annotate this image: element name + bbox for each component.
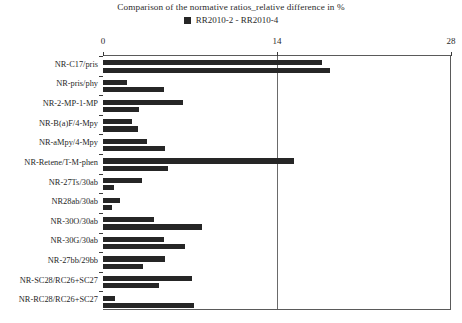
category-tick-mark <box>99 134 103 135</box>
category-label: NR28ab/30ab <box>0 198 98 206</box>
category-label: NR-27Ts/30ab <box>0 178 98 186</box>
bar <box>103 283 159 288</box>
bar <box>103 119 132 124</box>
category-label: NR-pris/phy <box>0 80 98 88</box>
bar <box>103 146 165 151</box>
category-tick-mark <box>99 115 103 116</box>
bar <box>103 185 114 190</box>
bar <box>103 276 192 281</box>
category-label: NR-2-MP-1-MP <box>0 100 98 108</box>
x-tick-mark <box>451 52 452 56</box>
x-tick-mark <box>103 52 104 56</box>
x-tick-label: 14 <box>273 36 282 46</box>
category-tick-mark <box>99 95 103 96</box>
bar <box>103 264 143 269</box>
gridline <box>277 56 278 309</box>
category-tick-mark <box>99 213 103 214</box>
bar <box>103 139 147 144</box>
bar <box>103 60 322 65</box>
chart-title: Comparison of the normative ratios_relat… <box>0 2 462 12</box>
bar <box>103 244 185 249</box>
bar <box>103 166 168 171</box>
bar <box>103 158 294 163</box>
bar <box>103 303 194 308</box>
bar <box>103 178 142 183</box>
category-tick-mark <box>99 193 103 194</box>
bar <box>103 68 330 73</box>
category-tick-mark <box>99 291 103 292</box>
bar <box>103 224 202 229</box>
category-tick-mark <box>99 76 103 77</box>
category-label: NR-B(a)F/4-Mpy <box>0 119 98 127</box>
category-label: NR-aMpy/4-Mpy <box>0 139 98 147</box>
bar <box>103 217 154 222</box>
category-tick-mark <box>99 154 103 155</box>
bar <box>103 80 127 85</box>
category-tick-mark <box>99 56 103 57</box>
category-tick-mark <box>99 272 103 273</box>
category-tick-mark <box>99 252 103 253</box>
category-label: NR-RC28/RC26+SC27 <box>0 296 98 304</box>
category-label: NR-Retene/T-M-phen <box>0 159 98 167</box>
bar <box>103 237 164 242</box>
category-label: NR-27bb/29bb <box>0 257 98 265</box>
category-tick-mark <box>99 174 103 175</box>
bar-chart: Comparison of the normative ratios_relat… <box>0 0 462 323</box>
bar <box>103 198 120 203</box>
category-tick-mark <box>99 233 103 234</box>
bar <box>103 296 115 301</box>
bar <box>103 205 112 210</box>
chart-legend: RR2010-2 - RR2010-4 <box>0 15 462 25</box>
category-label: NR-30G/30ab <box>0 237 98 245</box>
bar <box>103 100 183 105</box>
category-label: NR-30O/30ab <box>0 218 98 226</box>
bar <box>103 87 164 92</box>
x-tick-label: 28 <box>447 36 456 46</box>
category-label: NR-C17/pris <box>0 61 98 69</box>
legend-label: RR2010-2 - RR2010-4 <box>196 15 279 25</box>
bottom-note <box>0 314 462 323</box>
x-tick-label: 0 <box>101 36 106 46</box>
bar <box>103 107 139 112</box>
legend-swatch-icon <box>184 17 191 24</box>
bar <box>103 256 165 261</box>
plot-area <box>103 55 451 310</box>
bar <box>103 126 138 131</box>
category-label: NR-SC28/RC26+SC27 <box>0 276 98 284</box>
